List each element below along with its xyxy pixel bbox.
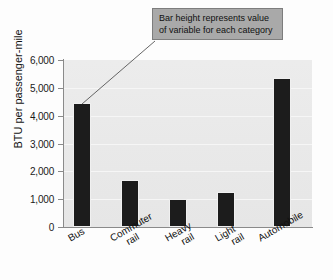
y-tick-6000 bbox=[58, 60, 63, 61]
y-tick-5000 bbox=[58, 88, 63, 89]
x-label-bus: Bus bbox=[66, 225, 86, 243]
y-tick-label-4000: 4,000 bbox=[30, 110, 54, 121]
y-axis-title: BTU per passenger-mile bbox=[12, 24, 24, 154]
y-tick-label-3000: 3,000 bbox=[30, 138, 54, 149]
y-tick-4000 bbox=[58, 116, 63, 117]
callout-line-1: Bar height represents value bbox=[159, 12, 282, 24]
y-tick-3000 bbox=[58, 144, 63, 145]
y-tick-0 bbox=[58, 227, 63, 228]
bar-bus[interactable] bbox=[73, 103, 91, 228]
y-tick-1000 bbox=[58, 199, 63, 200]
y-tick-label-2000: 2,000 bbox=[30, 166, 54, 177]
y-tick-2000 bbox=[58, 171, 63, 172]
x-label-bus-line1: Bus bbox=[66, 225, 86, 243]
bar-automobile[interactable] bbox=[273, 78, 291, 228]
bar-height-callout: Bar height represents value of variable … bbox=[152, 8, 283, 40]
plot-area bbox=[64, 60, 312, 227]
y-tick-label-0: 0 bbox=[49, 222, 54, 233]
y-tick-label-5000: 5,000 bbox=[30, 82, 54, 93]
y-tick-label-6000: 6,000 bbox=[30, 55, 54, 66]
y-axis-line bbox=[63, 59, 64, 228]
bar-chart-figure: 6,000 5,000 4,000 3,000 2,000 1,000 0 BT… bbox=[0, 0, 333, 280]
callout-line-2: of variable for each category bbox=[159, 24, 282, 36]
y-tick-label-1000: 1,000 bbox=[30, 194, 54, 205]
